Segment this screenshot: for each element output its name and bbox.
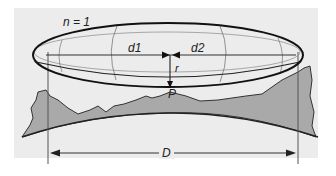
ellipsoid-lower-rim xyxy=(36,62,300,77)
ellipsoid-inner-guide xyxy=(34,32,300,72)
d2-label: d2 xyxy=(191,42,204,54)
total-distance-label: D xyxy=(159,147,174,159)
d1-label: d1 xyxy=(128,42,141,54)
zone-number-label: n = 1 xyxy=(63,16,90,28)
radius-label: r xyxy=(175,63,179,74)
ellipsoid-cross-section-mid-left xyxy=(111,26,117,80)
point-label: P xyxy=(168,88,176,100)
left-arrowhead-icon xyxy=(50,150,60,157)
right-arrowhead-icon xyxy=(286,150,296,157)
ellipsoid-cross-section-right xyxy=(278,38,283,74)
d2-arrowhead-icon xyxy=(172,52,180,59)
d1-arrowhead-icon xyxy=(162,52,170,59)
